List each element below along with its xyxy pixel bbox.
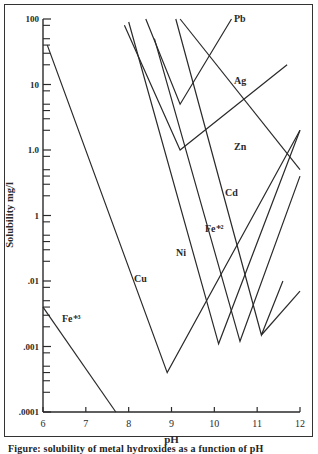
x-tick-label: 7 bbox=[83, 418, 88, 429]
series-line-cd bbox=[176, 19, 283, 335]
series-label-ag: Ag bbox=[234, 75, 246, 86]
y-axis-label: Solubility mg/l bbox=[4, 182, 15, 248]
series-label-pb: Pb bbox=[234, 13, 246, 24]
solubility-chart: 100101.01.01.001.00016789101112pHSolubil… bbox=[0, 0, 318, 454]
y-tick-label: 1.0 bbox=[28, 145, 40, 155]
x-tick-label: 6 bbox=[41, 418, 46, 429]
y-tick-label: 10 bbox=[30, 80, 40, 90]
y-tick-label: .001 bbox=[23, 342, 39, 352]
series-line-pb bbox=[146, 19, 232, 104]
series-line-cu bbox=[47, 45, 300, 373]
y-tick-label: .01 bbox=[28, 276, 40, 286]
y-tick-label: .0001 bbox=[19, 407, 40, 417]
x-tick-label: 8 bbox=[126, 418, 131, 429]
series-label-fe+3: Fe⁺³ bbox=[62, 313, 81, 324]
x-tick-label: 11 bbox=[252, 418, 262, 429]
series-label-fe+2: Fe⁺² bbox=[205, 223, 224, 234]
figure-caption: Figure: solubility of metal hydroxides a… bbox=[8, 443, 314, 454]
y-tick-label: 100 bbox=[26, 14, 40, 24]
x-tick-label: 12 bbox=[295, 418, 305, 429]
y-tick-label: 1 bbox=[35, 211, 40, 221]
series-label-cd: Cd bbox=[225, 187, 238, 198]
series-label-zn: Zn bbox=[234, 141, 247, 152]
x-tick-label: 10 bbox=[209, 418, 219, 429]
series-label-cu: Cu bbox=[134, 273, 147, 284]
series-line-ni bbox=[129, 22, 300, 344]
series-line-extra-low bbox=[261, 291, 300, 335]
series-label-ni: Ni bbox=[176, 247, 186, 258]
x-tick-label: 9 bbox=[169, 418, 174, 429]
